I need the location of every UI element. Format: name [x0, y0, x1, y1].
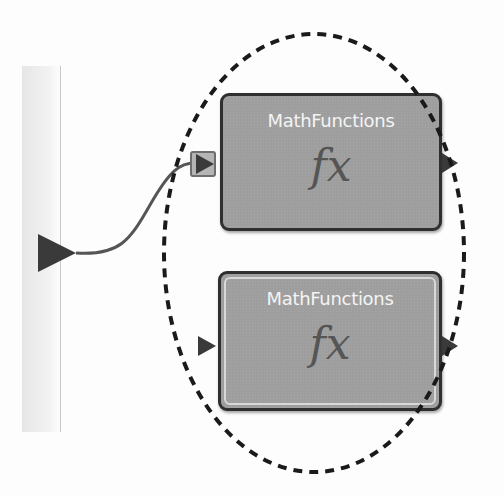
mathfunctions-block-2[interactable]: MathFunctions fx — [218, 271, 442, 411]
block-title: MathFunctions — [221, 288, 439, 309]
function-fx-icon: fx — [223, 140, 439, 191]
block-title: MathFunctions — [223, 110, 439, 131]
mathfunctions-block-1[interactable]: MathFunctions fx — [220, 93, 442, 231]
external-input-port-icon[interactable] — [38, 234, 76, 272]
connection-wire[interactable] — [76, 163, 195, 253]
function-fx-icon: fx — [221, 318, 439, 369]
block1-input-port-box[interactable] — [190, 151, 216, 177]
diagram-canvas[interactable]: MathFunctions fx MathFunctions fx — [0, 0, 504, 495]
diagram-graphics — [0, 0, 504, 495]
